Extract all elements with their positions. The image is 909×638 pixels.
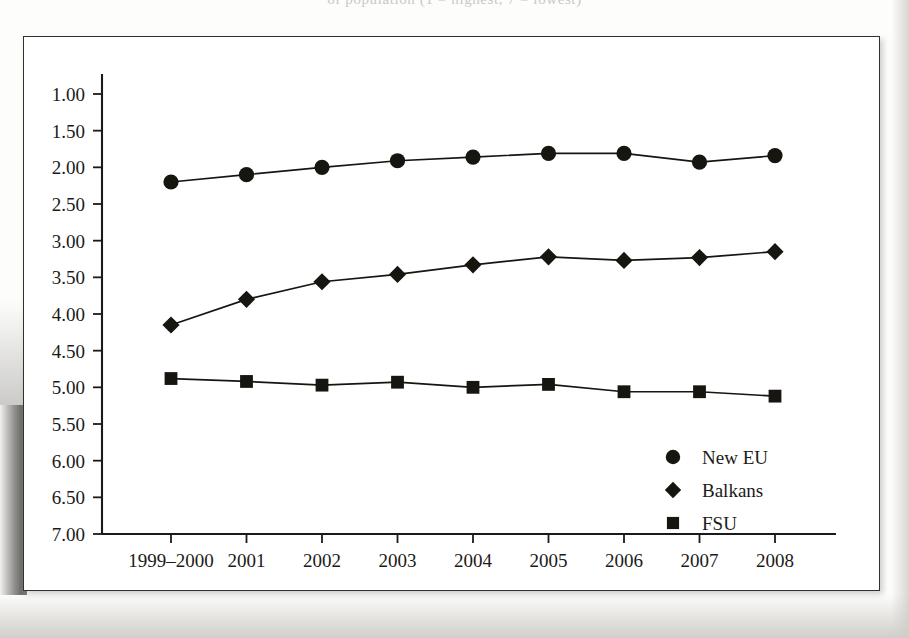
x-tick-label: 2001 — [228, 550, 266, 571]
diamond-marker — [615, 252, 632, 269]
circle-marker — [239, 167, 254, 182]
square-marker — [769, 390, 782, 403]
square-marker — [542, 378, 555, 391]
x-tick-label: 2004 — [454, 550, 493, 571]
square-marker — [618, 385, 631, 398]
scan-gutter-shadow-soft — [0, 300, 24, 420]
y-tick-label: 2.50 — [52, 194, 85, 215]
y-tick-label: 1.00 — [52, 84, 85, 105]
square-marker — [467, 381, 480, 394]
y-tick-label: 5.00 — [52, 377, 85, 398]
diamond-marker — [238, 291, 255, 308]
x-axis-ticks: 1999–20002001200220032004200520062007200… — [128, 534, 794, 571]
series-balkans — [162, 243, 783, 334]
x-tick-label: 2008 — [756, 550, 794, 571]
series-fsu — [165, 372, 782, 402]
x-tick-label: 2007 — [681, 550, 719, 571]
y-tick-label: 6.50 — [52, 487, 85, 508]
square-marker — [667, 517, 679, 529]
y-tick-label: 2.00 — [52, 157, 85, 178]
y-tick-label: 4.00 — [52, 304, 85, 325]
y-tick-label: 3.50 — [52, 267, 85, 288]
circle-marker — [666, 450, 680, 464]
y-tick-label: 6.00 — [52, 451, 85, 472]
square-marker — [240, 375, 253, 388]
circle-marker — [465, 149, 480, 164]
diamond-marker — [665, 482, 681, 498]
diamond-marker — [691, 249, 708, 266]
y-tick-label: 3.00 — [52, 231, 85, 252]
x-tick-label: 2005 — [530, 550, 568, 571]
x-tick-label: 2003 — [379, 550, 417, 571]
x-tick-label: 2006 — [605, 550, 643, 571]
series-new-eu — [163, 146, 782, 190]
y-tick-label: 4.50 — [52, 341, 85, 362]
diamond-marker — [464, 256, 481, 273]
diamond-marker — [389, 266, 406, 283]
scan-bottom-shadow — [0, 594, 909, 638]
circle-marker — [692, 155, 707, 170]
diamond-marker — [162, 316, 179, 333]
diamond-marker — [540, 248, 557, 265]
chart-legend: New EUBalkansFSU — [665, 447, 768, 534]
line-chart: 1.001.502.002.503.003.504.004.505.005.50… — [24, 37, 879, 589]
circle-marker — [163, 174, 178, 189]
square-marker — [165, 372, 178, 385]
y-tick-label: 7.00 — [52, 524, 85, 545]
square-marker — [391, 376, 404, 389]
circle-marker — [314, 160, 329, 175]
chart-figure-frame: 1.001.502.002.503.003.504.004.505.005.50… — [23, 36, 880, 591]
square-marker — [693, 385, 706, 398]
y-tick-label: 5.50 — [52, 414, 85, 435]
square-marker — [316, 379, 329, 392]
scan-top-text-fragment: of population (1 = highest, 7 = lowest) — [0, 0, 909, 8]
y-axis-ticks: 1.001.502.002.503.003.504.004.505.005.50… — [52, 84, 102, 545]
data-series-group — [162, 146, 783, 403]
legend-label-balkans: Balkans — [702, 480, 763, 501]
diamond-marker — [313, 273, 330, 290]
circle-marker — [767, 148, 782, 163]
circle-marker — [616, 146, 631, 161]
diamond-marker — [766, 243, 783, 260]
x-tick-label: 2002 — [303, 550, 341, 571]
scan-right-shadow — [891, 0, 909, 638]
legend-label-fsu: FSU — [702, 513, 737, 534]
y-tick-label: 1.50 — [52, 121, 85, 142]
x-tick-label: 1999–2000 — [128, 550, 214, 571]
scanned-page: of population (1 = highest, 7 = lowest) … — [0, 0, 909, 638]
circle-marker — [390, 153, 405, 168]
circle-marker — [541, 146, 556, 161]
legend-label-new-eu: New EU — [702, 447, 768, 468]
